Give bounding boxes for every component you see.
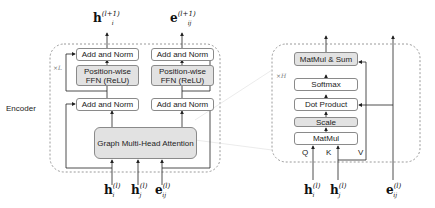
attn-input-h-j: h(l)j <box>330 182 340 198</box>
matmul: MatMul <box>294 132 358 145</box>
softmax: Softmax <box>294 78 358 91</box>
q-label: Q <box>302 148 308 157</box>
output-h: h(l+1)i <box>93 10 114 26</box>
input-h-i: h(l)i <box>104 182 114 198</box>
scale: Scale <box>294 117 358 127</box>
add-norm-bottom-right: Add and Norm <box>151 98 214 111</box>
ffn-left: Position-wise FFN (ReLU) <box>76 65 139 86</box>
add-norm-top-left: Add and Norm <box>76 48 139 61</box>
add-norm-bottom-left: Add and Norm <box>76 98 139 111</box>
input-h-j: h(l)j <box>131 182 141 198</box>
input-e-ij: e(l)ij <box>155 182 166 198</box>
attn-input-e-ij: e(l)ij <box>386 182 397 198</box>
graph-multi-head-attention: Graph Multi-Head Attention <box>94 127 197 159</box>
encoder-repeat-label: ×L <box>53 64 62 71</box>
matmul-sum: MatMul & Sum <box>294 52 358 66</box>
add-norm-top-right: Add and Norm <box>151 48 214 61</box>
diagram-connectors <box>0 0 435 208</box>
attn-input-h-i: h(l)i <box>304 182 314 198</box>
encoder-label: Encoder <box>6 104 36 113</box>
attention-repeat-label: ×H <box>276 72 286 79</box>
ffn-right: Position-wise FFN (ReLU) <box>151 65 214 86</box>
k-label: K <box>326 148 331 157</box>
dot-product: Dot Product <box>294 98 358 111</box>
output-e: e(l+1)ij <box>170 10 191 26</box>
v-label: V <box>358 148 363 157</box>
